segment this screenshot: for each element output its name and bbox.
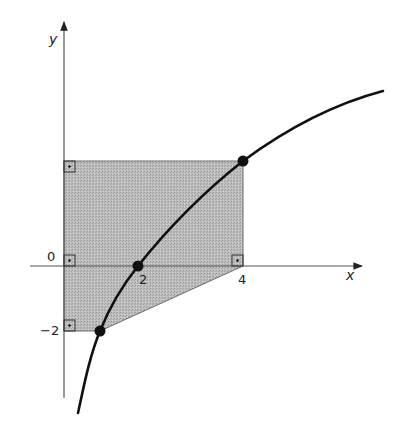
tick-label-x2: 2 bbox=[139, 272, 147, 287]
point-upper bbox=[238, 156, 249, 167]
tick-label-x4: 4 bbox=[238, 272, 246, 287]
tick-label-y-neg2: −2 bbox=[40, 323, 59, 338]
diagram: y x 0 2 4 −2 bbox=[0, 0, 401, 436]
tick-label-origin: 0 bbox=[47, 249, 55, 264]
point-x2 bbox=[133, 261, 144, 272]
y-axis-label: y bbox=[48, 31, 58, 47]
point-lower bbox=[95, 326, 106, 337]
x-axis-label: x bbox=[345, 267, 355, 283]
